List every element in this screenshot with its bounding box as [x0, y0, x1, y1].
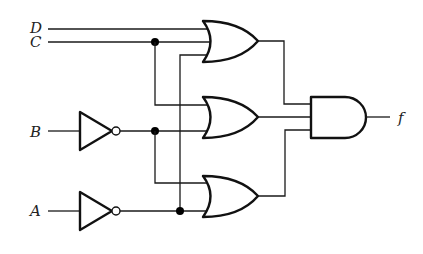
input-label-c: C	[30, 33, 42, 51]
not-gate-b	[80, 112, 112, 150]
wire-c-to-or2	[155, 42, 208, 105]
wire-b-not-to-or3	[155, 131, 208, 183]
wire-or3-to-and	[258, 130, 311, 196]
or-gate-2	[203, 97, 258, 138]
inverter-bubble-b	[112, 127, 120, 135]
wire-a-not-to-or1	[180, 55, 208, 211]
logic-circuit-diagram: D C B A f	[0, 0, 423, 254]
not-gate-a	[80, 192, 112, 230]
inverter-bubble-a	[112, 207, 120, 215]
output-label-f: f	[397, 109, 406, 127]
junction-a-not	[176, 207, 184, 215]
and-gate	[311, 97, 366, 138]
input-label-b: B	[29, 123, 41, 141]
input-label-a: A	[28, 202, 41, 220]
wire-or1-to-and	[258, 41, 311, 104]
or-gate-1	[203, 21, 258, 62]
or-gate-3	[203, 176, 258, 217]
